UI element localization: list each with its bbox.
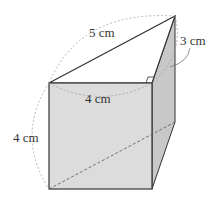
prism-svg: 5 cm 3 cm 4 cm 4 cm xyxy=(0,0,224,203)
label-height: 4 cm xyxy=(13,130,39,145)
triangular-prism-diagram: 5 cm 3 cm 4 cm 4 cm xyxy=(0,0,224,203)
label-hypotenuse: 5 cm xyxy=(89,25,115,40)
label-width: 4 cm xyxy=(85,91,111,106)
label-depth: 3 cm xyxy=(180,33,206,48)
